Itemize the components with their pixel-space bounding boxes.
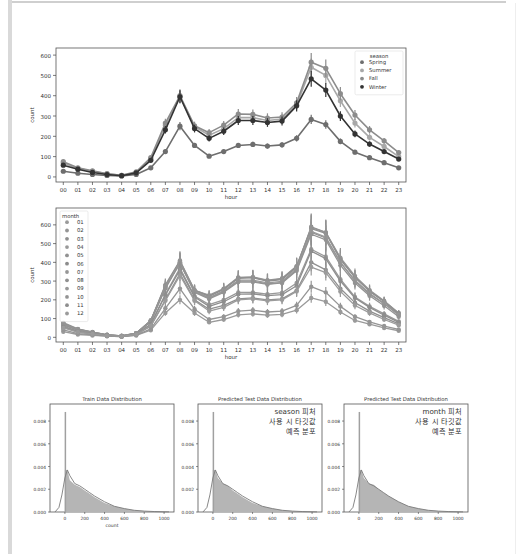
legend-item-label: 08	[77, 277, 84, 283]
legend-marker	[65, 312, 69, 316]
figure-canvas: 0100200300400500600000102030405060708091…	[0, 0, 516, 554]
legend-marker	[360, 60, 364, 64]
x-tick-label: 16	[293, 347, 300, 353]
x-tick-label: 23	[395, 187, 402, 193]
x-tick-label: 19	[337, 347, 344, 353]
legend-item-label: 04	[77, 244, 84, 250]
legend-marker	[65, 237, 69, 241]
x-tick-label: 13	[249, 187, 256, 193]
y-tick-label: 600	[41, 53, 52, 59]
y-tick-label: 0.002	[181, 487, 194, 492]
legend-marker	[65, 262, 69, 266]
x-tick-label: 800	[288, 516, 297, 521]
y-tick-label: 300	[41, 279, 52, 285]
x-axis-label: count	[106, 523, 119, 528]
x-tick-label: 1000	[306, 516, 317, 521]
y-tick-label: 100	[41, 154, 52, 160]
legend-item-label: 06	[77, 261, 84, 267]
y-tick-label: 600	[41, 222, 52, 228]
legend-item-label: Spring	[369, 59, 386, 66]
x-tick-label: 09	[191, 187, 198, 193]
y-tick-label: 400	[41, 93, 52, 99]
season-hour-pointplot: 0100200300400500600000102030405060708091…	[29, 48, 406, 200]
season-predicted-distribution-plot: Predicted Test Data Distribution0.0000.0…	[181, 396, 322, 521]
x-tick-label: 00	[60, 347, 67, 353]
legend-marker	[360, 85, 364, 89]
x-tick-label: 03	[104, 187, 111, 193]
y-tick-label: 300	[41, 114, 52, 120]
y-tick-label: 0.008	[327, 419, 340, 424]
plot-title: Predicted Test Data Distribution	[364, 396, 448, 402]
legend-marker	[65, 254, 69, 258]
y-tick-label: 0.002	[33, 487, 46, 492]
annotation-text: 사용 시 타깃값	[415, 417, 462, 426]
legend-marker	[65, 278, 69, 282]
legend-item-label: 02	[77, 227, 84, 233]
x-tick-label: 19	[337, 187, 344, 193]
x-tick-label: 17	[308, 347, 315, 353]
x-tick-label: 14	[264, 187, 271, 193]
x-tick-label: 06	[147, 187, 154, 193]
x-tick-label: 01	[74, 187, 81, 193]
x-tick-label: 800	[140, 516, 149, 521]
x-tick-label: 05	[133, 347, 140, 353]
x-tick-label: 400	[100, 516, 109, 521]
y-tick-label: 500	[41, 73, 52, 79]
legend-marker	[65, 245, 69, 249]
x-tick-label: 18	[322, 187, 329, 193]
y-axis-label: count	[29, 266, 35, 282]
x-tick-label: 13	[249, 347, 256, 353]
x-tick-label: 02	[89, 187, 96, 193]
y-tick-label: 500	[41, 241, 52, 247]
y-tick-label: 400	[41, 260, 52, 266]
legend-item-label: 10	[77, 294, 84, 300]
x-tick-label: 400	[248, 516, 257, 521]
x-tick-label: 15	[279, 347, 286, 353]
legend-item-label: Fall	[369, 75, 378, 81]
x-tick-label: 23	[395, 347, 402, 353]
x-tick-label: 05	[133, 187, 140, 193]
y-tick-label: 200	[41, 134, 52, 140]
legend-item-label: 09	[77, 285, 84, 291]
legend: month010203040506070809101112	[60, 211, 88, 322]
legend-item-label: 07	[77, 269, 84, 275]
x-tick-label: 09	[191, 347, 198, 353]
legend-marker	[65, 270, 69, 274]
x-axis-label: hour	[225, 194, 238, 200]
x-tick-label: 07	[162, 187, 169, 193]
annotation-text: month 피처	[422, 407, 462, 416]
x-tick-label: 10	[206, 347, 213, 353]
annotation-text: 사용 시 타깃값	[269, 417, 316, 426]
legend-item-label: Summer	[369, 67, 392, 73]
y-tick-label: 0.004	[33, 465, 46, 470]
x-tick-label: 0	[211, 516, 214, 521]
legend-item-label: 05	[77, 252, 84, 258]
x-tick-label: 600	[414, 516, 423, 521]
train-distribution-plot: Train Data Distribution0.0000.0020.0040.…	[33, 396, 174, 528]
y-tick-label: 0	[48, 174, 52, 180]
annotation-text: season 피처	[274, 407, 316, 416]
x-tick-label: 00	[60, 187, 67, 193]
x-tick-label: 12	[235, 347, 242, 353]
x-tick-label: 800	[434, 516, 443, 521]
x-tick-label: 02	[89, 347, 96, 353]
x-tick-label: 200	[229, 516, 238, 521]
x-tick-label: 200	[375, 516, 384, 521]
x-tick-label: 11	[220, 187, 227, 193]
x-tick-label: 08	[176, 347, 183, 353]
legend-marker	[65, 303, 69, 307]
x-tick-label: 400	[394, 516, 403, 521]
x-tick-label: 01	[74, 347, 81, 353]
y-tick-label: 0.000	[181, 510, 194, 515]
y-tick-label: 0.000	[327, 510, 340, 515]
x-tick-label: 20	[351, 187, 358, 193]
y-tick-label: 0.006	[327, 442, 340, 447]
y-tick-label: 0.000	[33, 510, 46, 515]
x-tick-label: 18	[322, 347, 329, 353]
x-tick-label: 03	[104, 347, 111, 353]
x-tick-label: 0	[63, 516, 66, 521]
y-tick-label: 200	[41, 297, 52, 303]
y-tick-label: 0.004	[327, 465, 340, 470]
y-tick-label: 100	[41, 316, 52, 322]
x-tick-label: 17	[308, 187, 315, 193]
